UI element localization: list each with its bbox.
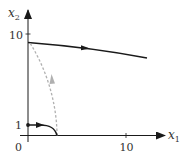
y-tick-label-1: 1 [15,119,22,132]
phase-portrait: x2 x1 10 1 0 10 [0,0,190,160]
x-tick-label-10: 10 [120,141,134,154]
dashed-trajectory [30,43,57,136]
y-axis [26,10,31,142]
y-tick-label-10: 10 [9,29,23,42]
dashed-trajectory-arrow-icon [50,74,56,84]
lower-trajectory [28,125,57,136]
origin-label: 0 [15,141,22,154]
upper-trajectory [28,43,147,59]
start-point [26,123,30,127]
x-axis [20,133,165,138]
y-axis-label: x2 [8,6,20,22]
lower-trajectory-arrow-icon [36,122,44,128]
x-axis-label: x1 [168,128,180,144]
